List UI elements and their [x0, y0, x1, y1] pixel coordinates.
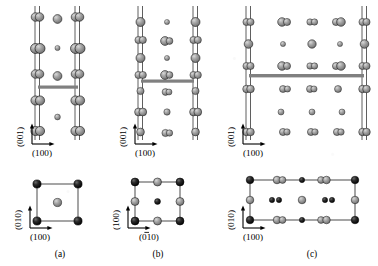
- cell-axis-label-a-horizontal: (100): [30, 232, 50, 242]
- figure-background: [0, 0, 378, 266]
- panel-caption-a: (a): [55, 249, 65, 260]
- cell-axis-label-c-vertical: (010): [226, 210, 236, 230]
- cell-axis-label-b-vertical: (100): [111, 210, 121, 230]
- axis-label-b-vertical: (001): [118, 127, 128, 147]
- cell-axis-label-b-horizontal-text: (010): [139, 232, 159, 242]
- defect-bar-b: [141, 80, 194, 83]
- cell-axis-label-a-vertical: (010): [13, 210, 23, 230]
- axis-label-c-vertical: (001): [226, 127, 236, 147]
- axis-label-a-horizontal: (100): [32, 148, 52, 158]
- crystal-structure-figure: (001) (100) (010) (100) (a): [0, 0, 378, 266]
- defect-bar-c: [249, 74, 364, 77]
- defect-bar-a: [38, 86, 78, 89]
- cell-axis-label-b-horizontal: (010): [139, 232, 159, 242]
- cell-axis-label-c-horizontal: (100): [243, 232, 263, 242]
- panel-caption-c: (c): [307, 249, 317, 260]
- axis-label-a-vertical: (001): [15, 127, 25, 147]
- axis-label-b-horizontal: (100): [135, 148, 155, 158]
- axis-label-c-horizontal: (100): [243, 148, 263, 158]
- panel-caption-b: (b): [153, 249, 164, 260]
